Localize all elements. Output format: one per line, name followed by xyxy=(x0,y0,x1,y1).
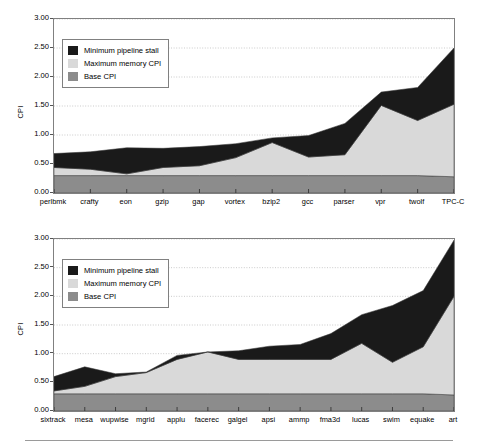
chart-top-x-tick-labels: perlbmkcraftyeongzipgapvortexbzip2gccpar… xyxy=(53,197,453,209)
x-tick-label: crafty xyxy=(80,197,98,206)
legend-item: Base CPI xyxy=(68,290,161,303)
x-tick-label: parser xyxy=(333,197,354,206)
x-tick-label: apsi xyxy=(262,415,276,424)
legend-label: Maximum memory CPI xyxy=(84,279,161,288)
y-tick-label: 0.50 xyxy=(23,377,49,385)
legend-item: Minimum pipeline stall xyxy=(68,264,161,277)
y-tick-label: 0.00 xyxy=(23,406,49,414)
legend-swatch-memory_cpi xyxy=(68,279,78,288)
x-tick-label: applu xyxy=(167,415,185,424)
x-tick-label: gcc xyxy=(302,197,314,206)
chart-bottom-y-tick-labels: 0.000.501.001.502.002.503.00 xyxy=(23,238,49,410)
x-tick-label: fma3d xyxy=(320,415,341,424)
legend-item: Base CPI xyxy=(68,70,161,83)
x-tick-label: gap xyxy=(192,197,204,206)
y-tick-label: 2.50 xyxy=(23,43,49,51)
x-tick-label: vpr xyxy=(375,197,385,206)
y-tick-label: 1.50 xyxy=(23,320,49,328)
y-tick-label: 0.50 xyxy=(23,159,49,167)
chart-top: CPI 0.000.501.001.502.002.503.00 perlbmk… xyxy=(0,6,477,218)
chart-top-y-tick-labels: 0.000.501.001.502.002.503.00 xyxy=(23,18,49,192)
legend-swatch-base_cpi xyxy=(68,292,78,301)
figure-page: CPI 0.000.501.001.502.002.503.00 perlbmk… xyxy=(0,0,477,447)
y-tick-label: 3.00 xyxy=(23,14,49,22)
y-tick-label: 0.00 xyxy=(23,188,49,196)
x-tick-label: wupwise xyxy=(100,415,128,424)
legend-label: Minimum pipeline stall xyxy=(84,46,159,55)
legend-item: Maximum memory CPI xyxy=(68,277,161,290)
x-tick-label: sixtrack xyxy=(40,415,65,424)
area-series xyxy=(54,176,454,193)
legend-item: Maximum memory CPI xyxy=(68,57,161,70)
x-tick-label: bzip2 xyxy=(262,197,280,206)
x-tick-label: lucas xyxy=(352,415,369,424)
y-tick-label: 1.00 xyxy=(23,349,49,357)
legend-swatch-pipeline_stall xyxy=(68,266,78,275)
chart-bottom: CPI 0.000.501.001.502.002.503.00 sixtrac… xyxy=(0,224,477,434)
y-tick-label: 2.00 xyxy=(23,291,49,299)
x-tick-label: TPC-C xyxy=(442,197,465,206)
x-tick-label: mesa xyxy=(75,415,93,424)
legend-item: Minimum pipeline stall xyxy=(68,44,161,57)
x-tick-label: twolf xyxy=(409,197,424,206)
legend-swatch-pipeline_stall xyxy=(68,46,78,55)
chart-top-area: CPI 0.000.501.001.502.002.503.00 perlbmk… xyxy=(0,6,477,218)
y-tick-label: 1.00 xyxy=(23,130,49,138)
x-tick-label: swim xyxy=(383,415,400,424)
legend-label: Maximum memory CPI xyxy=(84,59,161,68)
area-series xyxy=(54,394,454,411)
legend-label: Base CPI xyxy=(84,72,116,81)
x-tick-label: art xyxy=(449,415,458,424)
y-tick-label: 1.50 xyxy=(23,101,49,109)
y-tick-label: 2.00 xyxy=(23,72,49,80)
chart-bottom-area: CPI 0.000.501.001.502.002.503.00 sixtrac… xyxy=(0,224,477,434)
x-tick-label: facerec xyxy=(195,415,219,424)
chart-top-legend: Minimum pipeline stallMaximum memory CPI… xyxy=(62,39,169,88)
y-tick-label: 3.00 xyxy=(23,234,49,242)
x-tick-label: mgrid xyxy=(136,415,154,424)
legend-label: Base CPI xyxy=(84,292,116,301)
chart-bottom-legend: Minimum pipeline stallMaximum memory CPI… xyxy=(62,259,169,308)
x-tick-label: gzip xyxy=(155,197,169,206)
x-tick-label: perlbmk xyxy=(40,197,66,206)
legend-swatch-base_cpi xyxy=(68,72,78,81)
x-tick-label: equake xyxy=(410,415,434,424)
legend-label: Minimum pipeline stall xyxy=(84,266,159,275)
x-tick-label: vortex xyxy=(225,197,245,206)
x-tick-label: eon xyxy=(120,197,132,206)
x-tick-label: ammp xyxy=(289,415,310,424)
legend-swatch-memory_cpi xyxy=(68,59,78,68)
footer-divider xyxy=(25,440,453,441)
y-tick-label: 2.50 xyxy=(23,263,49,271)
x-tick-label: galgel xyxy=(228,415,248,424)
chart-bottom-x-tick-labels: sixtrackmesawupwisemgridapplufacerecgalg… xyxy=(53,415,453,427)
